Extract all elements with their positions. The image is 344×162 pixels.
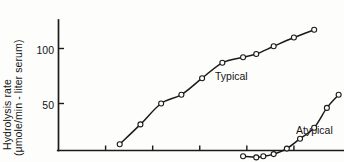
data-point-atypical-3 xyxy=(271,152,276,157)
axes xyxy=(58,20,344,151)
data-point-typical-1 xyxy=(138,122,143,127)
data-point-typical-6 xyxy=(241,55,246,60)
data-point-atypical-7 xyxy=(324,105,329,110)
data-point-typical-10 xyxy=(312,27,317,32)
data-curves xyxy=(120,30,339,158)
data-point-atypical-8 xyxy=(336,92,341,97)
data-point-atypical-6 xyxy=(312,125,317,130)
data-point-atypical-1 xyxy=(254,155,259,160)
data-point-typical-2 xyxy=(159,101,164,106)
data-point-atypical-2 xyxy=(261,154,266,159)
axis-ticks xyxy=(59,49,294,151)
data-point-atypical-4 xyxy=(284,146,289,151)
data-point-typical-5 xyxy=(220,60,225,65)
data-point-markers xyxy=(117,27,341,160)
figure-container: Hydrolysis rate (μmole/min - liter serum… xyxy=(0,0,344,162)
curve-typical xyxy=(120,30,314,144)
data-point-typical-9 xyxy=(291,35,296,40)
data-point-typical-8 xyxy=(271,44,276,49)
data-point-atypical-0 xyxy=(241,154,246,159)
data-point-typical-3 xyxy=(179,92,184,97)
curve-atypical xyxy=(243,95,339,158)
data-point-typical-4 xyxy=(200,76,205,81)
data-point-atypical-5 xyxy=(298,136,303,141)
plot-area xyxy=(0,0,344,162)
data-point-typical-7 xyxy=(254,52,259,57)
data-point-typical-0 xyxy=(117,142,122,147)
